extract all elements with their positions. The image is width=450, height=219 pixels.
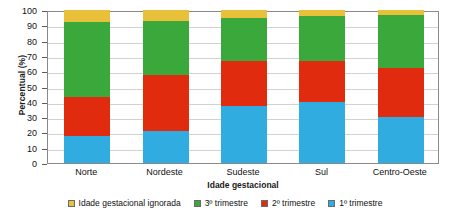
x-axis-title: Idade gestacional	[47, 180, 439, 190]
bar-segment[interactable]	[299, 61, 345, 102]
bar-group[interactable]	[378, 10, 424, 163]
legend-swatch-icon	[328, 200, 335, 207]
bar-segment[interactable]	[64, 22, 110, 97]
y-tick-label: 40	[11, 98, 37, 108]
x-tick-label: Centro-Oeste	[350, 167, 450, 177]
bar-segment[interactable]	[299, 16, 345, 60]
y-tick-label: 80	[11, 37, 37, 47]
bar-segment[interactable]	[378, 15, 424, 68]
chart-legend: Idade gestacional ignorada3º trimestre2º…	[0, 198, 450, 208]
y-tick-label: 50	[11, 83, 37, 93]
legend-item[interactable]: 1º trimestre	[328, 198, 382, 208]
bar-group[interactable]	[299, 10, 345, 163]
bar-segment[interactable]	[378, 117, 424, 163]
bar-segment[interactable]	[221, 106, 267, 163]
bar-group[interactable]	[64, 10, 110, 163]
bar-segment[interactable]	[143, 21, 189, 75]
legend-label: Idade gestacional ignorada	[79, 198, 181, 208]
bar-segment[interactable]	[143, 131, 189, 163]
bar-segment[interactable]	[143, 10, 189, 21]
legend-swatch-icon	[261, 200, 268, 207]
y-tick-label: 100	[11, 6, 37, 16]
bar-segment[interactable]	[64, 10, 110, 22]
legend-item[interactable]: 2º trimestre	[261, 198, 315, 208]
y-tick-label: 60	[11, 67, 37, 77]
y-tick-mark	[42, 164, 47, 165]
bar-segment[interactable]	[378, 68, 424, 117]
legend-label: 3º trimestre	[205, 198, 248, 208]
legend-swatch-icon	[68, 200, 75, 207]
bar-segment[interactable]	[221, 61, 267, 107]
y-tick-label: 0	[11, 159, 37, 169]
y-tick-label: 20	[11, 128, 37, 138]
chart-figure: Percentual (%) 1009080706050403020100 No…	[0, 0, 450, 219]
bar-segment[interactable]	[143, 75, 189, 131]
bar-segment[interactable]	[299, 10, 345, 16]
y-tick-label: 90	[11, 21, 37, 31]
y-tick-label: 30	[11, 113, 37, 123]
legend-label: 2º trimestre	[272, 198, 315, 208]
legend-item[interactable]: 3º trimestre	[194, 198, 248, 208]
y-tick-label: 10	[11, 144, 37, 154]
y-tick-label: 70	[11, 52, 37, 62]
bar-segment[interactable]	[64, 136, 110, 163]
legend-label: 1º trimestre	[339, 198, 382, 208]
bar-group[interactable]	[221, 10, 267, 163]
legend-item[interactable]: Idade gestacional ignorada	[68, 198, 181, 208]
bar-segment[interactable]	[378, 10, 424, 15]
bar-group[interactable]	[143, 10, 189, 163]
bar-segment[interactable]	[64, 97, 110, 136]
bar-segment[interactable]	[299, 102, 345, 163]
bar-segment[interactable]	[221, 18, 267, 61]
plot-area	[47, 11, 439, 164]
legend-swatch-icon	[194, 200, 201, 207]
bar-segment[interactable]	[221, 10, 267, 18]
